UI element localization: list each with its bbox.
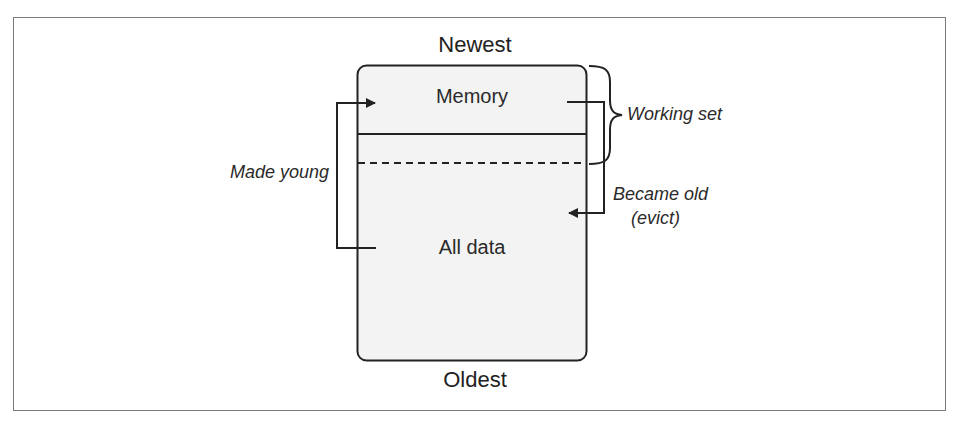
data-box: [358, 66, 587, 361]
oldest-label: Oldest: [443, 367, 507, 393]
memory-region-label: Memory: [436, 85, 508, 108]
made-young-label: Made young: [230, 162, 329, 183]
newest-label: Newest: [438, 32, 511, 58]
working-set-brace-icon: [589, 66, 622, 164]
working-set-label: Working set: [627, 104, 722, 125]
evict-label: (evict): [631, 208, 680, 229]
all-data-region-label: All data: [439, 236, 506, 259]
became-old-label: Became old: [613, 184, 708, 205]
lru-diagram: [0, 0, 961, 426]
